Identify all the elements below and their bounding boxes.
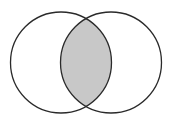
venn-diagram [0,0,175,123]
